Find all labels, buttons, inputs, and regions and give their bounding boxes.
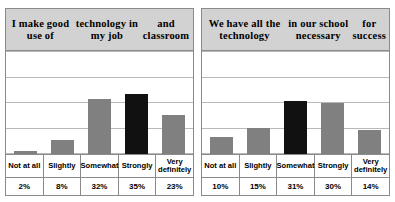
bar-somewhat [284, 101, 306, 154]
category-label: Slightly [240, 155, 278, 177]
percent-value: 2% [6, 178, 44, 195]
bar-cell [277, 51, 314, 154]
chart-title-left-line-2: technology in my job [72, 18, 142, 41]
percent-value: 14% [352, 178, 389, 195]
percent-value: 8% [44, 178, 82, 195]
category-label: Strongly [315, 155, 353, 177]
percent-value: 23% [156, 178, 193, 195]
bar-slightly [51, 140, 73, 154]
category-label: Slightly [44, 155, 82, 177]
percent-row-left: 2% 8% 32% 35% 23% [6, 177, 193, 195]
category-label-text: Somewhat [81, 162, 119, 170]
category-label: Somewhat [81, 155, 119, 177]
chart-title-left-line-3: and classroom [142, 18, 190, 41]
chart-title-right-line-1: We have all the technology [205, 18, 284, 41]
chart-panel-school-technology: We have all the technology in our school… [201, 8, 390, 196]
category-label-text: Strongly [122, 162, 153, 170]
bar-strongly [321, 103, 343, 155]
percent-row-right: 10% 15% 31% 30% 14% [202, 177, 389, 195]
category-label-text: Strongly [318, 162, 349, 170]
category-label: Not at all [6, 155, 44, 177]
percent-value: 30% [315, 178, 353, 195]
bar-cell [351, 51, 388, 154]
category-label-text: Not at all [204, 162, 236, 170]
bar-cell [155, 51, 192, 154]
chart-title-right-line-2: in our school necessary [284, 18, 352, 41]
chart-title-left: I make good use of technology in my job … [6, 9, 193, 51]
bar-not-at-all [210, 137, 232, 154]
percent-value: 35% [119, 178, 157, 195]
plot-area-left [6, 51, 193, 154]
category-label-text: Slightly [48, 162, 75, 170]
bar-cell [81, 51, 118, 154]
category-label-row-left: Not at all Slightly Somewhat Strongly Ve… [6, 154, 193, 177]
bar-cell [240, 51, 277, 154]
bar-strongly [125, 94, 147, 154]
percent-value: 10% [202, 178, 240, 195]
category-label: Strongly [119, 155, 157, 177]
bar-series-right [202, 51, 389, 154]
category-label-text: Not at all [8, 162, 40, 170]
chart-title-right: We have all the technology in our school… [202, 9, 389, 51]
bar-very-definitely [358, 130, 380, 154]
category-label-text: definitely [158, 166, 191, 174]
percent-value: 15% [240, 178, 278, 195]
bar-cell [44, 51, 81, 154]
percent-value: 31% [277, 178, 315, 195]
category-label: Very definitely [352, 155, 389, 177]
percent-value: 32% [81, 178, 119, 195]
category-label-text: Slightly [244, 162, 271, 170]
category-label-text: Somewhat [277, 162, 315, 170]
category-label-row-right: Not at all Slightly Somewhat Strongly Ve… [202, 154, 389, 177]
bar-cell [118, 51, 155, 154]
category-label-text: definitely [354, 166, 387, 174]
bar-cell [314, 51, 351, 154]
category-label: Not at all [202, 155, 240, 177]
charts-sheet: I make good use of technology in my job … [0, 0, 395, 202]
plot-area-right [202, 51, 389, 154]
bar-not-at-all [14, 151, 36, 154]
bar-series-left [6, 51, 193, 154]
bar-cell [203, 51, 240, 154]
bar-slightly [247, 128, 269, 154]
chart-title-right-line-3: for success [353, 18, 386, 41]
chart-title-left-line-1: I make good use of [9, 18, 72, 41]
bar-cell [7, 51, 44, 154]
bar-somewhat [88, 99, 110, 154]
chart-panel-job-classroom: I make good use of technology in my job … [5, 8, 194, 196]
bar-very-definitely [162, 115, 184, 154]
category-label: Very definitely [156, 155, 193, 177]
category-label: Somewhat [277, 155, 315, 177]
